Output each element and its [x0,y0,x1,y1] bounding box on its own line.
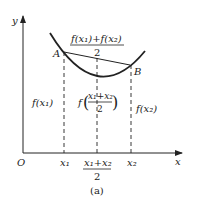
fx1-label: f(x₁) [31,97,53,108]
f-mid-paren-right: ) [112,93,118,112]
origin-label: O [17,157,25,168]
convex-function-diagram: y x O A B f(x₁)+f(x₂) 2 f(x₁) f(x₂) f ( … [0,0,198,206]
xmid-tick-denominator: 2 [94,171,100,182]
x-axis-label: x [175,156,181,167]
point-B-label: B [133,66,141,77]
x1-tick-label: x₁ [60,157,70,168]
caption: (a) [90,185,104,196]
xmid-tick-numerator: x₁+x₂ [84,157,112,168]
y-axis-label: y [11,15,18,26]
chord-mid-numerator: f(x₁)+f(x₂) [70,33,122,44]
x2-tick-label: x₂ [127,157,137,168]
f-mid-numerator: x₁+x₂ [88,91,113,101]
point-A-label: A [52,48,60,59]
f-mid-denominator: 2 [97,104,103,114]
chord-mid-denominator: 2 [94,47,100,58]
fx2-label: f(x₂) [135,103,157,114]
